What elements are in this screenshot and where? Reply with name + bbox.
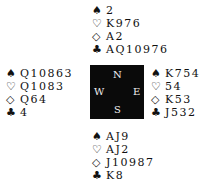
north-hearts: ♡K976 <box>92 17 168 30</box>
west-hearts: ♡Q1083 <box>6 80 73 93</box>
compass-west-label: W <box>94 87 104 97</box>
diamond-icon: ◇ <box>92 30 106 43</box>
south-hand: ♠AJ9 ♡AJ2 ◇J10987 ♣K8 <box>92 130 154 182</box>
club-icon: ♣ <box>92 43 106 56</box>
compass-north-label: N <box>113 70 122 80</box>
north-spades-cards: 2 <box>106 4 115 17</box>
compass-east-label: E <box>133 87 140 97</box>
club-icon: ♣ <box>92 169 106 182</box>
heart-icon: ♡ <box>92 17 106 30</box>
west-hand: ♠Q10863 ♡Q1083 ◇Q64 ♣4 <box>6 67 73 119</box>
spade-icon: ♠ <box>92 130 106 143</box>
north-diamonds-cards: A2 <box>106 30 124 43</box>
diamond-icon: ◇ <box>92 156 106 169</box>
west-hearts-cards: Q1083 <box>20 80 65 93</box>
west-clubs-cards: 4 <box>20 106 29 119</box>
east-hearts: ♡54 <box>151 80 200 93</box>
north-diamonds: ◇A2 <box>92 30 168 43</box>
east-clubs: ♣J532 <box>151 106 200 119</box>
west-clubs: ♣4 <box>6 106 73 119</box>
east-clubs-cards: J532 <box>165 106 196 119</box>
heart-icon: ♡ <box>151 80 165 93</box>
east-spades-cards: K754 <box>165 67 200 80</box>
diamond-icon: ◇ <box>151 93 165 106</box>
heart-icon: ♡ <box>6 80 20 93</box>
west-spades-cards: Q10863 <box>20 67 73 80</box>
spade-icon: ♠ <box>92 4 106 17</box>
north-clubs: ♣AQ10976 <box>92 43 168 56</box>
south-hearts-cards: AJ2 <box>106 143 130 156</box>
east-spades: ♠K754 <box>151 67 200 80</box>
south-clubs-cards: K8 <box>106 169 124 182</box>
club-icon: ♣ <box>6 106 20 119</box>
south-clubs: ♣K8 <box>92 169 154 182</box>
west-spades: ♠Q10863 <box>6 67 73 80</box>
north-spades: ♠2 <box>92 4 168 17</box>
south-hearts: ♡AJ2 <box>92 143 154 156</box>
east-diamonds-cards: K53 <box>165 93 192 106</box>
south-spades: ♠AJ9 <box>92 130 154 143</box>
south-diamonds: ◇J10987 <box>92 156 154 169</box>
east-hand: ♠K754 ♡54 ◇K53 ♣J532 <box>151 67 200 119</box>
east-hearts-cards: 54 <box>165 80 182 93</box>
south-spades-cards: AJ9 <box>106 130 130 143</box>
spade-icon: ♠ <box>151 67 165 80</box>
compass-table: N W E S <box>90 65 144 119</box>
diamond-icon: ◇ <box>6 93 20 106</box>
north-clubs-cards: AQ10976 <box>106 43 168 56</box>
west-diamonds: ◇Q64 <box>6 93 73 106</box>
south-diamonds-cards: J10987 <box>106 156 154 169</box>
east-diamonds: ◇K53 <box>151 93 200 106</box>
heart-icon: ♡ <box>92 143 106 156</box>
spade-icon: ♠ <box>6 67 20 80</box>
club-icon: ♣ <box>151 106 165 119</box>
north-hand: ♠2 ♡K976 ◇A2 ♣AQ10976 <box>92 4 168 56</box>
west-diamonds-cards: Q64 <box>20 93 48 106</box>
north-hearts-cards: K976 <box>106 17 141 30</box>
compass-south-label: S <box>114 105 121 115</box>
